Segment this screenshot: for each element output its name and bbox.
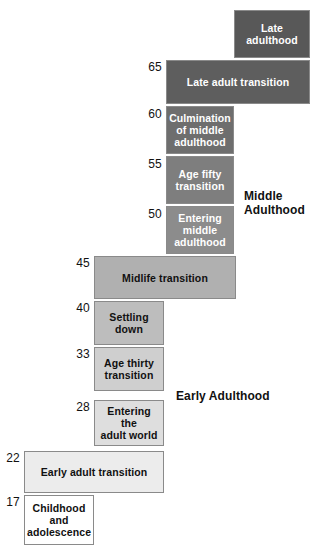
stage-label-entering-the-adult-world: Entering the adult world	[98, 405, 160, 441]
age-tick-65: 65	[138, 61, 162, 74]
stage-label-age-thirty-transition: Age thirty transition	[104, 357, 154, 381]
stage-box-late-adulthood: Late adulthood	[234, 10, 310, 58]
stage-box-midlife-transition: Midlife transition	[94, 256, 236, 299]
age-tick-33: 33	[66, 348, 90, 361]
age-tick-28: 28	[66, 401, 90, 414]
stage-label-culmination-of-middle-adulthood: Culmination of middle adulthood	[169, 112, 231, 148]
stage-label-settling-down: Settling down	[109, 311, 148, 335]
era-label-middle-adulthood: Middle Adulthood	[244, 189, 305, 217]
age-tick-45: 45	[66, 257, 90, 270]
stage-box-childhood-and-adolescence: Childhood and adolescence	[24, 495, 94, 545]
stage-label-midlife-transition: Midlife transition	[122, 272, 208, 284]
stage-box-late-adult-transition: Late adult transition	[166, 60, 310, 104]
stage-label-age-fifty-transition: Age fifty transition	[176, 168, 225, 192]
stage-box-age-fifty-transition: Age fifty transition	[166, 156, 234, 204]
age-tick-50: 50	[138, 208, 162, 221]
stage-box-early-adult-transition: Early adult transition	[24, 451, 164, 493]
age-tick-40: 40	[66, 302, 90, 315]
levinson-stages-diagram: Late adulthoodLate adult transitionCulmi…	[0, 0, 314, 550]
stage-label-entering-middle-adulthood: Entering middle adulthood	[174, 212, 226, 248]
stage-box-entering-middle-adulthood: Entering middle adulthood	[166, 206, 234, 254]
age-tick-60: 60	[138, 108, 162, 121]
stage-label-early-adult-transition: Early adult transition	[41, 466, 148, 478]
era-label-early-adulthood: Early Adulthood	[176, 389, 270, 403]
age-tick-22: 22	[0, 452, 20, 465]
stage-box-age-thirty-transition: Age thirty transition	[94, 347, 164, 391]
stage-label-childhood-and-adolescence: Childhood and adolescence	[27, 502, 91, 538]
stage-label-late-adult-transition: Late adult transition	[187, 76, 289, 88]
age-tick-17: 17	[0, 496, 20, 509]
stage-box-settling-down: Settling down	[94, 301, 164, 345]
stage-box-entering-the-adult-world: Entering the adult world	[94, 400, 164, 446]
stage-box-culmination-of-middle-adulthood: Culmination of middle adulthood	[166, 106, 234, 154]
stage-label-late-adulthood: Late adulthood	[246, 22, 298, 46]
age-tick-55: 55	[138, 158, 162, 171]
